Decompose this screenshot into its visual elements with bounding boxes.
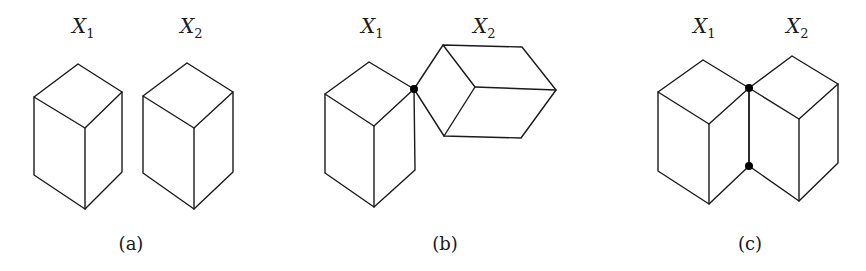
panel-c: X1X2(c) xyxy=(658,14,838,254)
box-outline xyxy=(749,56,838,201)
label-x1: X1 xyxy=(691,14,716,41)
box-horizontal-edge xyxy=(475,87,556,90)
box-top-face-edge xyxy=(749,84,838,119)
label-x2: X2 xyxy=(178,14,203,41)
panel-caption: (b) xyxy=(432,233,458,254)
contact-point-dot xyxy=(745,84,753,92)
box-top-face-edge xyxy=(143,92,233,128)
box-outline xyxy=(34,64,122,209)
box-x2 xyxy=(414,45,556,138)
box-x2 xyxy=(143,63,233,209)
box-top-face-edge xyxy=(325,89,414,126)
box-top-face-edge xyxy=(34,92,122,128)
box-x2 xyxy=(749,56,838,201)
label-x1: X1 xyxy=(359,14,384,41)
contact-point-dot xyxy=(745,162,753,170)
label-x2: X2 xyxy=(784,14,809,41)
panel-caption: (c) xyxy=(738,233,762,254)
box-outline xyxy=(414,45,556,138)
box-outline xyxy=(658,60,749,204)
box-x1 xyxy=(325,62,415,207)
box-top-face-edge xyxy=(658,88,749,124)
label-x2: X2 xyxy=(471,14,496,41)
panel-b: X1X2(b) xyxy=(325,14,556,254)
figure-canvas: X1X2(a) X1X2(b) X1X2(c) xyxy=(0,0,866,271)
panel-a: X1X2(a) xyxy=(34,14,233,254)
label-x1: X1 xyxy=(70,14,95,41)
panel-caption: (a) xyxy=(119,233,144,254)
box-x1 xyxy=(658,60,749,204)
box-outline xyxy=(325,62,415,207)
contact-point-dot xyxy=(410,85,418,93)
box-outline xyxy=(143,63,233,209)
box-inner-face-edge xyxy=(443,45,475,136)
box-x1 xyxy=(34,64,122,209)
